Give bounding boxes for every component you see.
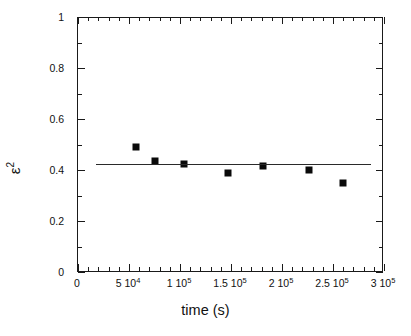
x-tick-minor xyxy=(353,267,354,271)
x-tick-label: 1.5 105 xyxy=(213,277,246,289)
y-tick-right-major xyxy=(376,272,383,273)
x-tick-top-minor xyxy=(221,17,222,21)
plot-area xyxy=(77,17,383,272)
y-tick-label: 0.8 xyxy=(49,62,64,74)
y-tick-major xyxy=(78,68,85,69)
x-tick-top-minor xyxy=(170,17,171,21)
x-tick-label: 2 105 xyxy=(269,277,294,289)
x-tick-minor xyxy=(170,267,171,271)
y-tick-right-major xyxy=(376,170,383,171)
y-tick-minor xyxy=(78,94,82,95)
x-tick-minor xyxy=(251,267,252,271)
x-tick-top-major xyxy=(129,17,130,24)
data-point-marker xyxy=(133,144,140,151)
data-point-marker xyxy=(224,169,231,176)
y-tick-label: 0.6 xyxy=(49,113,64,125)
x-tick-top-major xyxy=(384,17,385,24)
y-tick-right-major xyxy=(376,17,383,18)
x-tick-minor xyxy=(292,267,293,271)
y-tick-label: 0.4 xyxy=(49,164,64,176)
x-tick-major xyxy=(333,264,334,271)
y-tick-label: 0.2 xyxy=(49,215,64,227)
y-tick-right-minor xyxy=(379,94,383,95)
data-point-marker xyxy=(340,179,347,186)
x-tick-minor xyxy=(98,267,99,271)
x-tick-label: 1 105 xyxy=(167,277,192,289)
y-tick-label: 1 xyxy=(58,11,64,23)
x-tick-label: 5 104 xyxy=(116,277,141,289)
x-tick-major xyxy=(384,264,385,271)
x-tick-minor xyxy=(313,267,314,271)
x-tick-minor xyxy=(272,267,273,271)
x-tick-minor xyxy=(88,267,89,271)
x-tick-top-major xyxy=(333,17,334,24)
x-tick-label: 2.5 105 xyxy=(315,277,348,289)
x-tick-top-major xyxy=(231,17,232,24)
x-tick-major xyxy=(78,264,79,271)
x-tick-top-major xyxy=(282,17,283,24)
y-tick-major xyxy=(78,221,85,222)
x-axis-title: time (s) xyxy=(0,302,411,318)
x-tick-top-minor xyxy=(343,17,344,21)
y-tick-right-minor xyxy=(379,247,383,248)
x-tick-minor xyxy=(190,267,191,271)
x-tick-top-minor xyxy=(272,17,273,21)
x-tick-minor xyxy=(302,267,303,271)
x-tick-minor xyxy=(374,267,375,271)
x-tick-top-minor xyxy=(211,17,212,21)
y-tick-minor xyxy=(78,145,82,146)
x-tick-top-minor xyxy=(262,17,263,21)
x-tick-top-minor xyxy=(302,17,303,21)
x-tick-minor xyxy=(343,267,344,271)
x-tick-minor xyxy=(241,267,242,271)
x-tick-minor xyxy=(139,267,140,271)
x-tick-minor xyxy=(323,267,324,271)
y-tick-right-minor xyxy=(379,196,383,197)
x-tick-major xyxy=(282,264,283,271)
y-axis-title-exponent: 2 xyxy=(5,162,16,168)
x-tick-top-major xyxy=(180,17,181,24)
chart-root: 05 1041 1051.5 1052 1052.5 1053 105 00.2… xyxy=(0,0,411,336)
y-axis-title-base: ε xyxy=(6,167,23,174)
x-tick-top-major xyxy=(78,17,79,24)
x-tick-minor xyxy=(221,267,222,271)
x-tick-minor xyxy=(211,267,212,271)
x-tick-major xyxy=(129,264,130,271)
trend-line xyxy=(96,164,370,165)
y-tick-minor xyxy=(78,247,82,248)
y-tick-major xyxy=(78,17,85,18)
x-tick-major xyxy=(231,264,232,271)
x-tick-minor xyxy=(364,267,365,271)
x-tick-minor xyxy=(160,267,161,271)
x-tick-top-minor xyxy=(119,17,120,21)
data-point-marker xyxy=(305,167,312,174)
x-tick-minor xyxy=(149,267,150,271)
x-tick-top-minor xyxy=(241,17,242,21)
x-tick-major xyxy=(180,264,181,271)
x-tick-label: 3 105 xyxy=(371,277,396,289)
x-tick-top-minor xyxy=(139,17,140,21)
y-tick-right-minor xyxy=(379,145,383,146)
x-tick-top-minor xyxy=(292,17,293,21)
y-tick-minor xyxy=(78,43,82,44)
y-tick-major xyxy=(78,272,85,273)
x-tick-minor xyxy=(119,267,120,271)
y-tick-minor xyxy=(78,196,82,197)
x-tick-top-minor xyxy=(374,17,375,21)
x-tick-top-minor xyxy=(88,17,89,21)
x-tick-top-minor xyxy=(313,17,314,21)
y-axis-title: ε2 xyxy=(6,162,23,174)
x-tick-top-minor xyxy=(149,17,150,21)
x-tick-minor xyxy=(200,267,201,271)
y-tick-right-major xyxy=(376,119,383,120)
x-tick-top-minor xyxy=(160,17,161,21)
x-tick-minor xyxy=(109,267,110,271)
x-tick-top-minor xyxy=(323,17,324,21)
x-tick-top-minor xyxy=(353,17,354,21)
y-tick-right-major xyxy=(376,221,383,222)
y-tick-major xyxy=(78,119,85,120)
x-tick-top-minor xyxy=(98,17,99,21)
x-tick-label: 0 xyxy=(74,277,80,289)
x-tick-top-minor xyxy=(364,17,365,21)
x-tick-top-minor xyxy=(200,17,201,21)
